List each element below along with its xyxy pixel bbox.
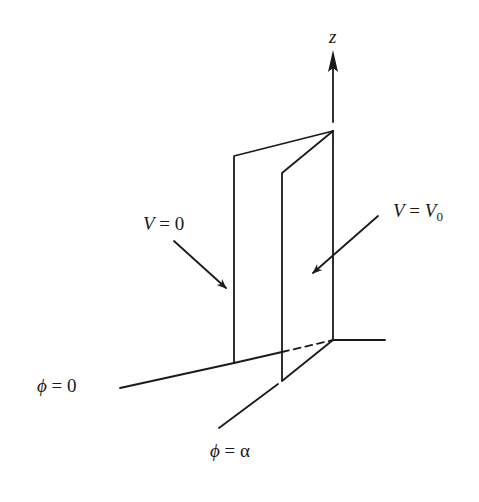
- v-v0-var: V: [393, 200, 405, 221]
- wedge-diagram: [0, 0, 479, 502]
- phi-alpha-var: ϕ: [210, 440, 220, 461]
- v-v0-value: V: [425, 200, 437, 221]
- v-zero-var: V: [143, 213, 155, 234]
- v-v0-pointer-arrow-icon: [313, 216, 378, 273]
- phi-zero-ground-solid-segment: [234, 352, 282, 363]
- v-zero-label: V = 0: [143, 213, 184, 235]
- phi-alpha-label: ϕ = α: [210, 440, 250, 462]
- phi-alpha-ground-line: [219, 384, 278, 428]
- phi-alpha-plane-outline: [282, 131, 333, 381]
- v-v0-subscript: 0: [436, 209, 443, 224]
- phi-zero-eq: =: [47, 375, 67, 396]
- phi-zero-plane-outline: [234, 131, 333, 363]
- phi-zero-value: 0: [67, 375, 77, 396]
- z-axis-label: z: [329, 26, 336, 48]
- phi-zero-ground-line: [120, 363, 234, 388]
- phi-zero-var: ϕ: [37, 375, 47, 396]
- v-v0-label: V = V0: [393, 200, 443, 225]
- phi-zero-label: ϕ = 0: [37, 375, 77, 397]
- v-zero-pointer-arrow-icon: [174, 241, 226, 288]
- phi-alpha-value: α: [240, 440, 250, 461]
- phi-alpha-eq: =: [220, 440, 240, 461]
- v-zero-eq: =: [155, 213, 175, 234]
- v-v0-eq: =: [405, 200, 425, 221]
- v-zero-value: 0: [175, 213, 185, 234]
